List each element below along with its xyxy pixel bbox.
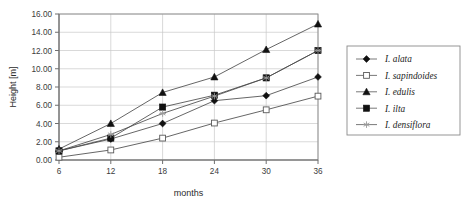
- chart-legend: I. alataI. sapindoidesI. edulisI. iltaI.…: [347, 46, 460, 135]
- series-lines: [59, 24, 318, 157]
- data-point-filled-diamond: [159, 120, 166, 127]
- series-markers-i-densiflora: [56, 47, 322, 154]
- data-point-open-square: [160, 135, 166, 141]
- x-axis-title: months: [174, 188, 204, 198]
- legend-label: I. edulis: [384, 87, 415, 97]
- data-point-filled-triangle: [263, 46, 270, 53]
- series-markers-i-ilta: [56, 47, 321, 154]
- data-point-open-square: [108, 147, 114, 153]
- data-point-filled-square: [363, 105, 369, 111]
- x-tick-label: 12: [106, 167, 116, 176]
- series-markers-i-edulis: [55, 20, 321, 152]
- data-point-star: [159, 110, 166, 117]
- x-tick-label: 24: [210, 167, 220, 176]
- y-tick-label: 14.00: [32, 28, 53, 37]
- gridlines: [59, 14, 318, 160]
- y-tick-label: 10.00: [32, 65, 53, 74]
- line-chart: 0.002.004.006.008.0010.0012.0014.0016.00…: [0, 0, 467, 205]
- x-tick-label: 6: [57, 167, 62, 176]
- y-tick-label: 6.00: [36, 101, 52, 110]
- series-layer: [55, 20, 321, 160]
- data-point-open-square: [364, 73, 370, 79]
- legend-label: I. ilta: [384, 104, 405, 114]
- y-axis-title: Height [m]: [8, 66, 18, 107]
- legend-label: I. densiflora: [384, 120, 431, 130]
- data-point-open-square: [315, 93, 321, 99]
- y-axis-tick-labels: 0.002.004.006.008.0010.0012.0014.0016.00: [32, 10, 53, 165]
- data-point-filled-triangle: [314, 20, 321, 27]
- series-line-i-densiflora: [59, 51, 318, 151]
- data-point-filled-diamond: [315, 74, 322, 81]
- x-axis-tick-labels: 61218243036: [57, 167, 323, 176]
- x-tick-label: 36: [313, 167, 323, 176]
- data-point-open-square: [212, 120, 218, 126]
- legend-label: I. alata: [384, 54, 412, 64]
- series-line-i-alata: [59, 77, 318, 151]
- y-tick-label: 8.00: [36, 83, 52, 92]
- chart-svg: 0.002.004.006.008.0010.0012.0014.0016.00…: [0, 0, 467, 205]
- series-line-i-ilta: [59, 51, 318, 151]
- legend-label: I. sapindoides: [384, 71, 438, 81]
- x-tick-label: 18: [158, 167, 168, 176]
- data-point-open-square: [263, 107, 269, 113]
- data-point-filled-square: [160, 104, 166, 110]
- y-tick-label: 16.00: [32, 10, 53, 19]
- data-point-filled-triangle: [211, 73, 218, 80]
- series-markers-i-sapindoides: [56, 93, 321, 160]
- y-tick-label: 0.00: [36, 156, 52, 165]
- y-tick-label: 4.00: [36, 120, 52, 129]
- y-tick-label: 2.00: [36, 138, 52, 147]
- data-point-filled-diamond: [263, 92, 270, 99]
- y-tick-label: 12.00: [32, 47, 53, 56]
- x-tick-label: 30: [262, 167, 272, 176]
- data-point-open-square: [56, 154, 62, 160]
